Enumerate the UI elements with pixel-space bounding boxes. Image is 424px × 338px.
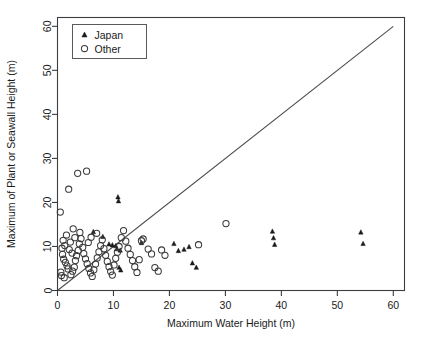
x-tick-label-20: 20: [164, 299, 176, 311]
data-point-japan: [359, 230, 363, 234]
x-tick-label-60: 60: [387, 299, 399, 311]
data-point-japan: [172, 241, 176, 245]
data-point-other: [223, 220, 229, 226]
data-point-japan: [272, 242, 276, 246]
data-point-japan: [194, 265, 198, 269]
y-tick-label-10: 10: [42, 240, 54, 252]
data-point-other: [92, 261, 98, 267]
x-tick-label-10: 10: [108, 299, 120, 311]
y-tick-label-50: 50: [42, 64, 54, 76]
data-point-japan: [107, 242, 111, 246]
data-point-other: [63, 232, 69, 238]
scatter-plot-figure: 01020304050600102030405060Maximum Water …: [0, 0, 424, 338]
x-tick-label-50: 50: [331, 299, 343, 311]
y-tick-label-20: 20: [42, 196, 54, 208]
identity-reference-line: [58, 26, 394, 290]
x-axis-title: Maximum Water Height (m): [167, 317, 295, 329]
y-tick-label-60: 60: [42, 20, 54, 32]
y-tick-label-30: 30: [42, 152, 54, 164]
data-point-other: [148, 251, 154, 257]
data-point-japan: [116, 195, 120, 199]
data-point-other: [120, 228, 126, 234]
data-point-japan: [182, 247, 186, 251]
data-point-japan: [361, 241, 365, 245]
data-point-other: [70, 226, 76, 232]
legend-label-other: Other: [95, 43, 122, 55]
data-point-other: [113, 255, 119, 261]
data-point-japan: [187, 244, 191, 248]
legend: JapanOther: [73, 25, 147, 59]
x-tick-label-0: 0: [55, 299, 61, 311]
legend-label-japan: Japan: [95, 29, 124, 41]
data-point-other: [195, 242, 201, 248]
data-point-other: [134, 269, 140, 275]
data-point-japan: [270, 229, 274, 233]
data-point-japan: [190, 261, 194, 265]
series-other: [57, 168, 229, 281]
data-point-other: [129, 257, 135, 263]
data-point-other: [85, 239, 91, 245]
x-tick-label-30: 30: [220, 299, 232, 311]
data-point-other: [72, 235, 78, 241]
data-point-other: [162, 252, 168, 258]
y-axis-title: Maximum of Plant or Seawall Height (m): [5, 60, 17, 248]
data-point-other: [66, 186, 72, 192]
data-point-other: [84, 168, 90, 174]
data-point-other: [127, 251, 133, 257]
data-point-japan: [176, 248, 180, 252]
data-point-other: [77, 229, 83, 235]
y-tick-label-0: 0: [42, 287, 54, 293]
data-point-other: [125, 245, 131, 251]
series-japan: [91, 195, 365, 272]
chart-canvas: 01020304050600102030405060Maximum Water …: [0, 0, 424, 338]
data-point-other: [140, 236, 146, 242]
data-point-other: [57, 209, 63, 215]
data-point-other: [75, 170, 81, 176]
data-point-japan: [271, 236, 275, 240]
data-point-other: [123, 238, 129, 244]
y-tick-label-40: 40: [42, 108, 54, 120]
data-point-other: [71, 264, 77, 270]
x-tick-label-40: 40: [276, 299, 288, 311]
data-point-other: [136, 257, 142, 263]
